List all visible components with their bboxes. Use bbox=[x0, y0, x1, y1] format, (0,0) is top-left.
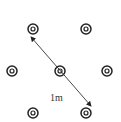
diagram-canvas bbox=[0, 0, 121, 122]
node-circle-icon bbox=[7, 66, 17, 76]
node-circle-icon bbox=[102, 66, 112, 76]
distance-label: 1m bbox=[50, 92, 63, 103]
node-circle-icon bbox=[28, 108, 38, 118]
node-circle-icon bbox=[81, 108, 91, 118]
nodes bbox=[7, 24, 112, 118]
node-circle-icon bbox=[28, 24, 38, 34]
node-circle-icon bbox=[81, 24, 91, 34]
